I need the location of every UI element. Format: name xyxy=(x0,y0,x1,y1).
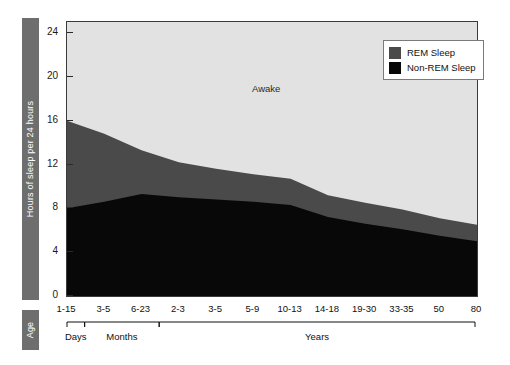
group-label: Years xyxy=(305,331,329,342)
group-bracket xyxy=(159,322,475,327)
group-label: Months xyxy=(106,331,137,342)
x-axis-group-brackets xyxy=(0,0,510,365)
group-bracket xyxy=(67,322,85,327)
group-label: Days xyxy=(65,331,87,342)
group-bracket xyxy=(85,322,160,327)
